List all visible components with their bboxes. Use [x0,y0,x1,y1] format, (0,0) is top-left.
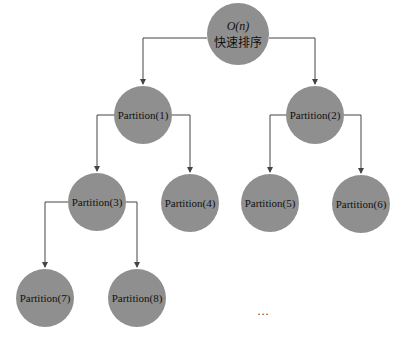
node-label: Partition(7) [20,292,71,305]
node-p3: Partition(3) [68,173,126,231]
node-p4: Partition(4) [161,174,219,232]
root-complexity: O(n) [227,19,250,33]
edge-root-p1 [143,38,207,84]
node-label: Partition(3) [72,196,123,209]
node-p2: Partition(2) [286,86,344,144]
edge-p2-p5 [270,115,286,172]
root-title: 快速排序 [214,35,262,50]
node-p1: Partition(1) [114,86,172,144]
edge-p3-p7 [45,202,68,267]
node-label: Partition(4) [165,197,216,210]
edge-p1-p3 [97,115,114,171]
node-p6: Partition(6) [332,175,390,233]
edge-root-p2 [269,38,315,84]
root-node: O(n) 快速排序 [207,3,269,65]
node-label: Partition(1) [118,109,169,122]
node-label: Partition(8) [112,292,163,305]
edge-p1-p4 [172,115,190,172]
node-p5: Partition(5) [241,174,299,232]
node-p8: Partition(8) [108,269,166,327]
edge-p3-p8 [126,202,137,267]
edges [45,38,361,267]
edge-p2-p6 [344,115,361,173]
quicksort-partition-tree: O(n) 快速排序 Partition(1) Partition(2) Part… [0,0,402,342]
node-p7: Partition(7) [16,269,74,327]
node-label: Partition(2) [290,109,341,122]
node-label: Partition(5) [245,197,296,210]
continuation-ellipsis: ··· [257,307,269,321]
node-label: Partition(6) [336,198,387,211]
